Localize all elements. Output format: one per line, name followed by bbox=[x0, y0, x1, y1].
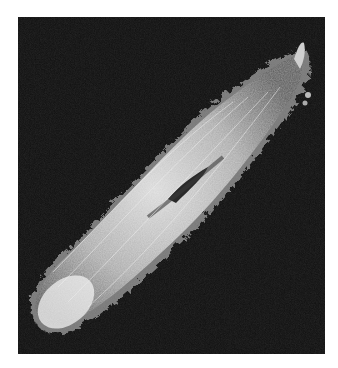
paramecium-sem-image bbox=[18, 17, 325, 354]
micrograph-frame bbox=[18, 17, 325, 354]
